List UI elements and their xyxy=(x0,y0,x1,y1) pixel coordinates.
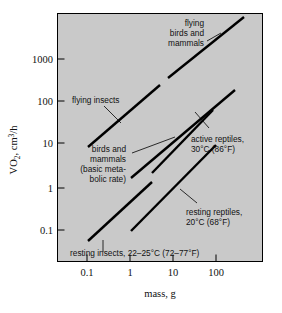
y-tick-label-1000: 1000 xyxy=(32,54,53,65)
metabolic-rate-log-log-chart: 1000 100 10 1 0.1 VO2, cm3/h 0.1 1 10 10… xyxy=(0,0,282,313)
y-tick-label-10: 10 xyxy=(43,138,54,149)
annotation-active-reptiles-line1: active reptiles, xyxy=(191,134,244,144)
annotation-flying-birds-line3: mammals xyxy=(168,38,204,48)
annotation-active-reptiles-line2: 30°C (86°F) xyxy=(191,144,235,154)
annotation-flying-insects-label: flying insects xyxy=(72,95,120,105)
annotation-birds-basic-line4: bolic rate) xyxy=(90,174,127,184)
annotation-resting-reptiles-line2: 20°C (68°F) xyxy=(186,217,230,227)
y-tick-label-0.1: 0.1 xyxy=(40,225,53,236)
x-tick-label-0.1: 0.1 xyxy=(80,267,93,278)
annotation-birds-basic-line2: mammals xyxy=(90,154,126,164)
y-tick-label-100: 100 xyxy=(37,96,53,107)
annotation-resting-reptiles-line1: resting reptiles, xyxy=(186,207,242,217)
y-title-prefix: VO xyxy=(8,159,19,175)
x-axis-title: mass, g xyxy=(144,288,176,299)
y-tick-label-1: 1 xyxy=(48,183,53,194)
y-title-mid: , cm xyxy=(8,137,19,155)
x-tick-label-100: 100 xyxy=(208,267,224,278)
annotation-flying-birds-line2: birds and xyxy=(170,28,205,38)
annotation-flying-birds-line1: flying xyxy=(185,18,205,28)
chart-figure: 1000 100 10 1 0.1 VO2, cm3/h 0.1 1 10 10… xyxy=(0,0,282,313)
x-tick-label-10: 10 xyxy=(168,267,179,278)
annotation-birds-basic-line1: birds and xyxy=(92,144,127,154)
x-tick-label-1: 1 xyxy=(127,267,132,278)
annotation-resting-insects-label: resting insects, 22–25°C (72–77°F) xyxy=(70,248,200,258)
y-title-suffix: /h xyxy=(8,125,19,134)
annotation-birds-basic-line3: (basic meta- xyxy=(80,164,126,174)
